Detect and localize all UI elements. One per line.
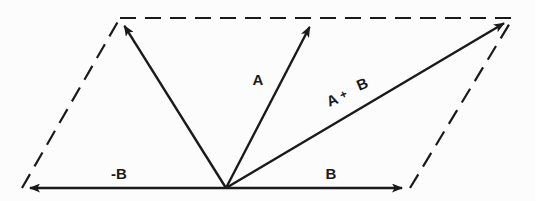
label-vector-a: A [253, 71, 264, 88]
label-vector-b: B [326, 165, 337, 182]
labels-group: A B -B A + B [111, 71, 372, 182]
vectors-group [30, 23, 504, 188]
label-vector-a-plus-b-group: A + B [323, 74, 372, 110]
label-sum-b: B [354, 74, 371, 94]
vector-diagram-canvas: A B -B A + B [0, 0, 535, 201]
label-sum-plus-icon: + [337, 87, 349, 103]
construction-line-right-edge [410, 18, 513, 188]
label-vector-neg-b: -B [111, 165, 127, 182]
construction-line-left-edge [22, 18, 120, 188]
vector-diagram-figure: A B -B A + B [0, 0, 535, 201]
vector-a-translated-line [124, 26, 226, 188]
